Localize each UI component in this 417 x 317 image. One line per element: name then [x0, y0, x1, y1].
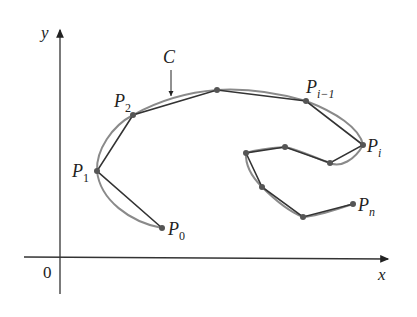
point-p0	[159, 225, 165, 231]
y-axis-label: y	[39, 23, 49, 42]
label-p1: P1	[71, 161, 89, 185]
point	[259, 184, 265, 190]
point	[300, 214, 306, 220]
arc-length-diagram: y x 0 C P2 P1 P0 Pi−1 Pi Pn	[0, 0, 417, 317]
point	[214, 87, 220, 93]
label-pi-minus-1: Pi−1	[305, 77, 334, 101]
point-pi	[360, 142, 366, 148]
origin-label: 0	[43, 263, 52, 282]
x-axis-label: x	[377, 265, 386, 284]
point-p1	[94, 168, 100, 174]
curve-c	[97, 90, 363, 228]
point	[282, 144, 288, 150]
curve-label: C	[163, 47, 176, 67]
label-p0: P0	[167, 219, 185, 243]
point	[327, 160, 333, 166]
label-p2: P2	[113, 91, 131, 115]
point	[243, 150, 249, 156]
x-axis	[24, 257, 388, 259]
point-pi-minus-1	[303, 98, 309, 104]
inscribed-polygon	[97, 90, 363, 228]
label-pi: Pi	[366, 136, 381, 160]
point-pn	[350, 201, 356, 207]
label-pn: Pn	[357, 195, 375, 219]
